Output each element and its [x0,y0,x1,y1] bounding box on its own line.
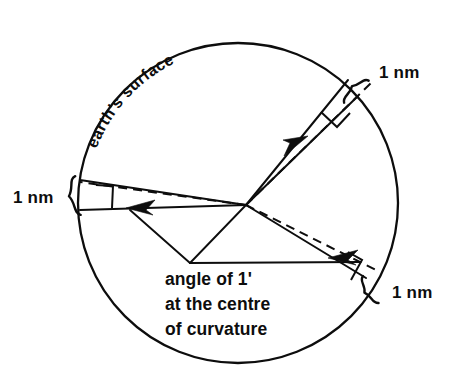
brace-lower-right [357,276,379,306]
diagram-container: 1 nm 1 nm 1 nm [0,0,470,386]
arrow-upper-right [283,136,308,156]
wedge-left-side-a [80,180,246,205]
right-angle-tick-upper-right [321,112,350,127]
label-earth-surface: earth's surface [83,50,176,150]
wedge-left-side-b [80,205,246,210]
label-nm-top-right: 1 nm [379,63,419,82]
wedge-lower-right-side-a [246,205,366,278]
caption-line-1: angle of 1' [165,269,252,289]
label-nm-bottom-right: 1 nm [392,283,432,302]
right-angle-tick-left [96,185,113,208]
triangle-edge-apex-to-left [130,210,190,263]
wedge-upper-right-side-b [246,96,358,205]
caption-line-3: of curvature [165,319,268,339]
triangle-edge-centre-to-apex [190,205,246,263]
label-nm-left: 1 nm [13,188,53,207]
caption-line-2: at the centre [165,294,271,314]
wedge-lower-right-side-b [190,262,360,263]
earth-curvature-diagram: 1 nm 1 nm 1 nm [0,0,470,386]
label-earth-surface-textpath: earth's surface [83,50,176,150]
